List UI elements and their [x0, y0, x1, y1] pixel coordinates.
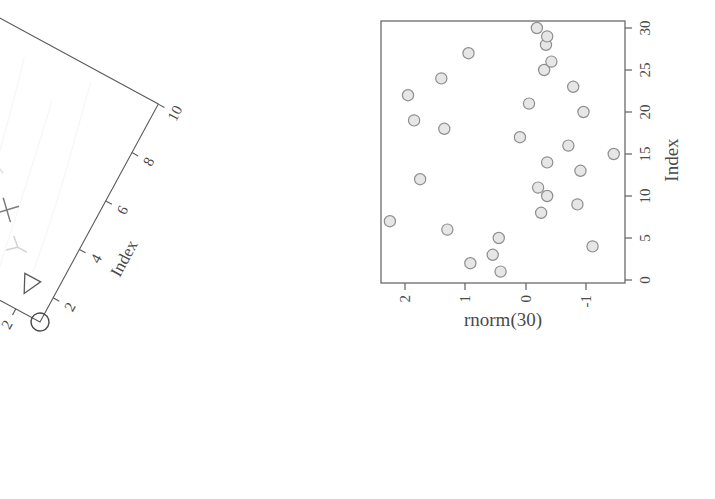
- right-data-point: [568, 81, 579, 92]
- right-data-point: [575, 165, 586, 176]
- right-y-tick-label: 30: [637, 21, 653, 36]
- right-data-point: [523, 98, 534, 109]
- right-data-point: [542, 157, 553, 168]
- right-plot: 2 1 0 -1 rnorm(30) 0 5 10 15 20 25 30 In…: [0, 0, 715, 499]
- right-plot-x-ticks: [405, 283, 586, 290]
- right-x-tick-label: 0: [518, 295, 534, 303]
- right-plot-x-tick-labels: 2 1 0 -1: [397, 295, 594, 308]
- right-data-point: [384, 216, 395, 227]
- right-plot-y-tick-labels: 0 5 10 15 20 25 30: [637, 21, 653, 284]
- right-data-point: [542, 190, 553, 201]
- right-y-tick-label: 10: [637, 189, 653, 204]
- right-data-point: [563, 140, 574, 151]
- scanned-plot-page: 2 4 6 8 10 Index 2 4 6 8 10: [0, 0, 715, 499]
- right-data-point: [415, 174, 426, 185]
- right-data-point: [608, 148, 619, 159]
- right-data-point: [465, 258, 476, 269]
- right-data-point: [531, 22, 542, 33]
- right-plot-y-ticks: [625, 28, 632, 280]
- right-data-point: [487, 249, 498, 260]
- right-data-point: [514, 132, 525, 143]
- right-x-tick-label: -1: [578, 295, 594, 308]
- right-y-tick-label: 0: [637, 276, 653, 284]
- right-data-point: [495, 266, 506, 277]
- right-data-point: [439, 123, 450, 134]
- right-data-point: [442, 224, 453, 235]
- right-x-tick-label: 1: [457, 295, 473, 303]
- right-y-tick-label: 15: [637, 147, 653, 162]
- right-data-point: [578, 106, 589, 117]
- right-data-point: [546, 56, 557, 67]
- right-data-point: [493, 232, 504, 243]
- right-data-point: [542, 31, 553, 42]
- right-y-tick-label: 25: [637, 63, 653, 78]
- right-data-point: [587, 241, 598, 252]
- right-data-point: [436, 73, 447, 84]
- right-data-point: [463, 48, 474, 59]
- right-data-point: [402, 90, 413, 101]
- right-data-point: [536, 207, 547, 218]
- right-y-tick-label: 5: [637, 234, 653, 242]
- right-plot-xlabel: rnorm(30): [464, 309, 542, 331]
- right-data-point: [533, 182, 544, 193]
- right-y-tick-label: 20: [637, 105, 653, 120]
- right-x-tick-label: 2: [397, 295, 413, 303]
- right-plot-points: [384, 22, 619, 277]
- right-data-point: [408, 115, 419, 126]
- right-plot-ylabel: Index: [661, 138, 682, 182]
- right-data-point: [572, 199, 583, 210]
